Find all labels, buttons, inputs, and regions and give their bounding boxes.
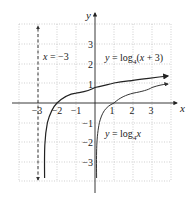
curve1-label-rest: + 3): [144, 52, 163, 64]
y-tick: 3: [88, 39, 93, 50]
y-tick: 2: [88, 59, 93, 70]
x-tick: −3: [32, 105, 43, 116]
x-tick: −1: [71, 105, 82, 116]
curve2-label-eq: = log: [109, 128, 132, 139]
y-tick: −1: [82, 118, 93, 129]
x-tick: 3: [149, 105, 154, 116]
y-tick-labels: 3 2 1 −1 −2 −3: [82, 39, 93, 168]
curve1-label-eq: = log: [109, 52, 132, 63]
y-axis-label: y: [85, 9, 91, 21]
y-tick: −2: [82, 137, 93, 148]
asymptote-label: x = −3: [42, 51, 69, 62]
asymptote-label-eq: = −3: [47, 51, 68, 62]
curve1-label: y = log4(x + 3): [104, 52, 163, 66]
log-graph: y x −3 −2 −1 1 2 3 3 2 1 −1 −2 −3 x = −3…: [0, 0, 187, 198]
x-tick: 2: [130, 105, 135, 116]
curve-log4-x-plus-3: [44, 76, 168, 178]
x-tick: −2: [52, 105, 63, 116]
curve2-label-var: x: [135, 128, 141, 139]
curve2-label: y = log4x: [104, 128, 141, 142]
x-axis-label: x: [179, 102, 185, 114]
y-tick: −3: [82, 157, 93, 168]
x-tick: 1: [110, 105, 115, 116]
y-tick: 1: [88, 79, 93, 90]
